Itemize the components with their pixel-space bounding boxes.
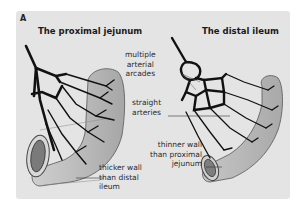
arcades-label: multiple arterial arcades: [125, 50, 156, 79]
jejunum-arteries: [26, 46, 66, 150]
ileum-title: The distal ileum: [202, 26, 279, 36]
straight-arteries-label: straight arteries: [132, 98, 161, 117]
thicker-wall-label: thicker wall than distal ileum: [99, 163, 142, 192]
thinner-wall-label: thinner wall than proximal jejunum: [146, 140, 202, 169]
ileum-arteries: [172, 38, 226, 110]
figure-label: A: [20, 14, 26, 23]
jejunum-title: The proximal jejunum: [38, 26, 142, 36]
